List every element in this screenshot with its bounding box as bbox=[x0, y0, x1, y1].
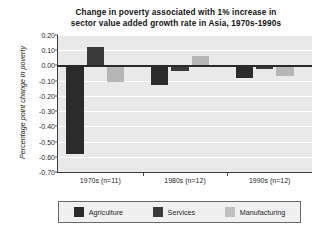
chart-title-line-1: Change in poverty associated with 1% inc… bbox=[40, 8, 312, 19]
bar-group bbox=[143, 35, 228, 172]
y-tick-label: -0.60 bbox=[39, 153, 55, 160]
zero-baseline bbox=[57, 65, 312, 66]
chart-legend: AgricultureServicesManufacturing bbox=[58, 201, 301, 223]
y-tick-label: -0.70 bbox=[39, 169, 55, 176]
legend-label-services: Services bbox=[168, 208, 196, 217]
y-tick-label: -0.50 bbox=[39, 138, 55, 145]
y-tick-label: 0.00 bbox=[41, 62, 55, 69]
y-tick-label: -0.10 bbox=[39, 77, 55, 84]
bar-manufacturing bbox=[107, 65, 124, 82]
x-axis-line bbox=[57, 172, 312, 173]
chart-title: Change in poverty associated with 1% inc… bbox=[40, 8, 312, 29]
bar-group bbox=[227, 35, 312, 172]
chart-title-line-2: sector value added growth rate in Asia, … bbox=[40, 19, 312, 30]
y-tick-label: -0.40 bbox=[39, 123, 55, 130]
legend-label-agriculture: Agriculture bbox=[89, 208, 123, 217]
chart-figure: Change in poverty associated with 1% inc… bbox=[0, 0, 319, 234]
legend-swatch-agriculture bbox=[74, 207, 84, 217]
legend-label-manufacturing: Manufacturing bbox=[240, 208, 286, 217]
y-tick-label: -0.20 bbox=[39, 92, 55, 99]
bar-services bbox=[87, 47, 104, 65]
bar-manufacturing bbox=[276, 65, 293, 76]
y-axis-title: Percentage point change in poverty bbox=[18, 28, 27, 178]
y-tick-label: 0.20 bbox=[41, 32, 55, 39]
legend-item: Services bbox=[153, 207, 196, 217]
bar-agriculture bbox=[236, 65, 253, 77]
bar-agriculture bbox=[151, 65, 168, 85]
legend-item: Manufacturing bbox=[225, 207, 286, 217]
legend-swatch-services bbox=[153, 207, 163, 217]
bar-agriculture bbox=[66, 65, 83, 153]
x-tick-label: 1980s (n=12) bbox=[164, 177, 205, 184]
y-tick-label: 0.10 bbox=[41, 47, 55, 54]
plot-area: 0.200.100.00-0.10-0.20-0.30-0.40-0.50-0.… bbox=[57, 35, 312, 172]
legend-item: Agriculture bbox=[74, 207, 123, 217]
bar-manufacturing bbox=[192, 56, 209, 66]
x-tick-label: 1970s (n=11) bbox=[80, 177, 121, 184]
y-tick-label: -0.30 bbox=[39, 108, 55, 115]
x-tick-label: 1990s (n=12) bbox=[249, 177, 290, 184]
legend-swatch-manufacturing bbox=[225, 207, 235, 217]
bar-group bbox=[58, 35, 143, 172]
